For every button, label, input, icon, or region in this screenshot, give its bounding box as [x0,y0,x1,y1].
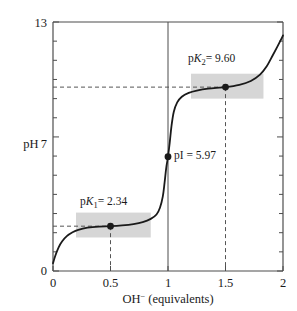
x-tick-label-0.5: 0.5 [103,276,119,290]
x-axis-title-equivalents-text: (equivalents) [148,292,213,306]
pi-prefix: pI [174,149,184,162]
x-axis-title-oh: OH [122,292,140,306]
data-point-pK1 [107,223,114,230]
chart-svg: 13 7 0 pH 0 0.5 1 1.5 2 OH− (equivalents… [0,0,297,311]
pk2-value: = 9.60 [206,52,236,64]
y-axis-title: pH [23,137,38,151]
y-tick-label-7: 7 [41,137,47,151]
y-tick-label-13: 13 [35,16,48,30]
x-axis-title: OH− (equivalents) [122,291,213,307]
data-point-pK2 [222,84,229,91]
data-point-pI [165,153,172,160]
x-tick-label-1: 1 [165,276,171,290]
y-tick-label-0: 0 [41,264,47,278]
pi-value-text: = 5.97 [186,149,216,161]
pi-annotation: pI = 5.97 [174,149,216,162]
titration-curve-figure: 13 7 0 pH 0 0.5 1 1.5 2 OH− (equivalents… [0,0,297,311]
x-tick-label-0: 0 [50,276,56,290]
pk1-value: = 2.34 [98,195,128,207]
x-tick-label-2: 2 [280,276,286,290]
x-tick-label-1.5: 1.5 [218,276,234,290]
